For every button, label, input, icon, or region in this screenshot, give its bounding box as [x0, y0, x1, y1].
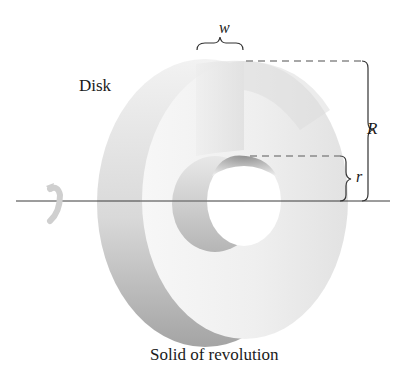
outer-radius-label: R [367, 119, 377, 139]
disk-label: Disk [79, 76, 111, 96]
disk-cross-section-slice [196, 61, 244, 156]
inner-radius-label: r [356, 168, 362, 186]
figure-caption: Solid of revolution [150, 345, 278, 365]
disk-inner-hole [172, 155, 281, 252]
width-label: w [219, 19, 230, 37]
rotation-arrow-icon [46, 183, 60, 221]
width-brace [197, 37, 243, 50]
solid-of-revolution-figure: Disk w R r Solid of revolution [0, 0, 410, 371]
disk-diagram-svg [0, 0, 410, 371]
